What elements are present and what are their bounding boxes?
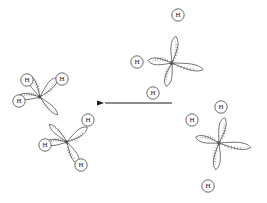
methyl-radical-bottom-carbon: C [196, 118, 251, 170]
orbital-diagram: CCHHHHHHCHHHCHHH [0, 0, 267, 203]
methyl-radical-bottom: CHHH [186, 101, 251, 192]
hydrogen-label: H [175, 11, 180, 19]
hydrogen-atom: H [131, 56, 143, 68]
orbital-lobe [40, 97, 58, 115]
hydrogen-label: H [78, 161, 83, 169]
orbital-lobe [148, 58, 172, 65]
methyl-radical-top: CHHH [131, 9, 204, 99]
hydrogen-label: H [59, 75, 64, 83]
hydrogen-atom: H [147, 87, 159, 99]
hydrogen-atom: H [75, 159, 87, 171]
hydrogen-label: H [205, 182, 210, 190]
hydrogen-label: H [150, 89, 155, 97]
hydrogen-label: H [189, 116, 194, 124]
orbital-lobe [219, 142, 251, 149]
carbon-center-label: C [65, 139, 69, 145]
carbon-center-label: C [217, 140, 221, 146]
hydrogen-label: H [42, 141, 47, 149]
hydrogen-atom: H [39, 139, 51, 151]
orbital-lobe [67, 127, 87, 142]
orbital-lobe [196, 135, 219, 143]
reaction-arrow [97, 101, 172, 106]
hydrogen-atom: H [56, 73, 68, 85]
orbital-lobe [213, 143, 220, 170]
orbital-lobe [172, 63, 203, 71]
orbital-lobe [164, 63, 172, 86]
hydrogen-atom: H [172, 9, 184, 21]
methyl-radical-top-carbon: C [148, 36, 203, 86]
hydrogen-label: H [24, 76, 29, 84]
carbon-center-label: C [38, 94, 42, 100]
orbital-lobe [171, 36, 178, 63]
carbon-center-label: C [170, 60, 174, 66]
hydrogen-label: H [16, 97, 21, 105]
hydrogen-atom: H [202, 180, 214, 192]
hydrogen-label: H [218, 103, 223, 111]
hydrogen-atom: H [215, 101, 227, 113]
hydrogen-atom: H [82, 114, 94, 126]
ethane-molecule: CCHHHHHH [13, 73, 94, 171]
hydrogen-atom: H [13, 95, 25, 107]
hydrogen-atom: H [186, 114, 198, 126]
hydrogen-label: H [85, 116, 90, 124]
hydrogen-label: H [134, 58, 139, 66]
hydrogen-atom: H [21, 74, 33, 86]
reaction-arrow-head [97, 101, 104, 106]
orbital-lobe [40, 78, 57, 97]
figure-page: CCHHHHHHCHHHCHHH [0, 0, 267, 203]
